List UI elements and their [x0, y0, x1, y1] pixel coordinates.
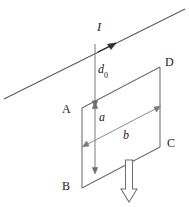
- current-direction-arrow-icon: [98, 43, 116, 52]
- loop-edge-AD: [82, 67, 160, 108]
- side-a-label: a: [99, 111, 105, 123]
- vertex-label-b: B: [62, 180, 70, 192]
- dimension-arrow-a: [92, 102, 98, 174]
- vertex-label-a: A: [62, 103, 71, 115]
- side-b-label: b: [123, 129, 129, 141]
- dimension-arrow-b: [82, 106, 161, 147]
- distance-d0-label: d0: [98, 63, 108, 78]
- physics-figure: I d0 a b A B C D: [0, 0, 189, 207]
- figure-canvas: [0, 0, 189, 207]
- vertex-label-d: D: [165, 56, 174, 68]
- distance-d0-subscript: 0: [104, 71, 108, 80]
- vertex-label-c: C: [167, 137, 175, 149]
- current-label: I: [97, 21, 101, 34]
